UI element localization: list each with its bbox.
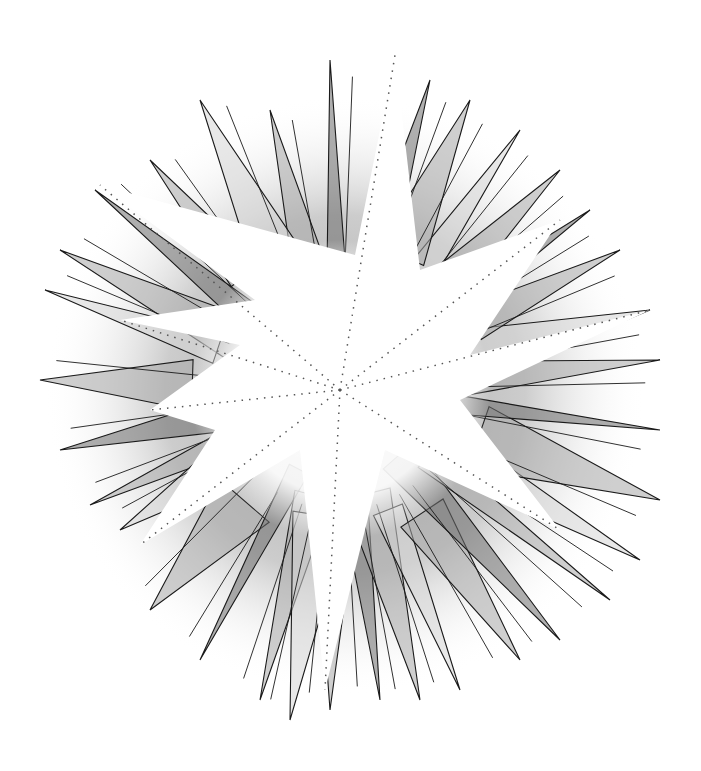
starburst-artwork: [0, 0, 701, 771]
starburst-svg: [0, 0, 701, 771]
